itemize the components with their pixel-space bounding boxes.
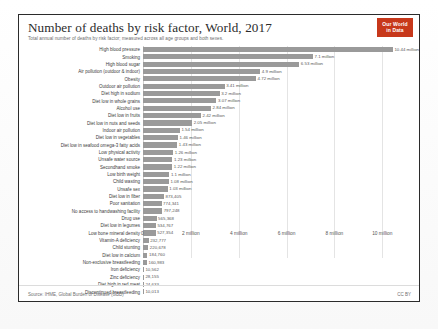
bar-row[interactable]: Secondhand smoke1.22 million [19,164,420,171]
bar-value-label: 220,678 [148,245,165,251]
bar-row[interactable]: Diet low in nuts and seeds2.05 million [19,119,420,126]
bar[interactable] [143,208,162,213]
bar-track: 1.03 million [143,186,420,193]
bar[interactable] [143,62,299,67]
bar-row[interactable]: Alcohol use2.84 million [19,105,420,112]
bar-row-label: Child stunting [19,245,143,250]
bar[interactable] [143,164,172,169]
bar-row[interactable]: Low physical activity1.26 million [19,149,420,156]
bar[interactable] [143,150,173,155]
bar-value-label: 3.07 million [216,98,240,104]
bar[interactable] [143,54,313,59]
bar[interactable] [143,135,178,140]
bar-row[interactable]: Unsafe sex1.03 million [19,186,420,193]
bar-row[interactable]: Unsafe water source1.23 million [19,156,420,163]
bar[interactable] [143,91,220,96]
bar-value-label: 1.23 million [172,157,196,163]
bar-row-label: Air pollution (outdoor & indoor) [19,69,143,74]
bar-row[interactable]: Low birth weight1.1 million [19,171,420,178]
bar-value-label: 1.22 million [172,164,196,170]
bar-track: 160,983 [143,259,420,266]
bar-row-label: High blood sugar [19,62,143,67]
bar-row[interactable]: Diet low in whole grains3.07 million [19,97,420,104]
screenshot-page: Number of deaths by risk factor, World, … [0,0,438,329]
bar-row[interactable]: Diet low in seafood omega-3 fatty acids1… [19,141,420,148]
bar[interactable] [143,186,168,191]
bar[interactable] [143,223,156,228]
bar-row[interactable]: No access to handwashing facility797,248 [19,208,420,215]
chart-card: Number of deaths by risk factor, World, … [18,14,420,302]
bar-row-label: Diet low in fruits [19,113,143,118]
bar-value-label: 1.03 million [168,186,192,192]
license-note: CC BY [397,292,411,297]
bar-value-label: 4.9 million [260,69,281,75]
bar-track: 3.41 million [143,83,420,90]
bar[interactable] [143,128,180,133]
bar-row[interactable]: Diet low in fruits2.42 million [19,112,420,119]
bar-row[interactable]: Drug use565,368 [19,215,420,222]
x-axis-tick: 6 million [278,231,296,236]
bar-row[interactable]: Poor sanitation774,341 [19,200,420,207]
bar-value-label: 534,767 [156,223,173,229]
bar-row-label: Diet low in nuts and seeds [19,121,143,126]
bar-row[interactable]: Outdoor air pollution3.41 million [19,83,420,90]
bar-row[interactable]: Obesity4.72 million [19,75,420,82]
bar-track: 1.22 million [143,164,420,171]
source-note: Source: IHME, Global Burden of Disease (… [28,292,124,297]
bar-value-label: 4.72 million [256,76,280,82]
bar[interactable] [143,142,177,147]
bar-track: 10,562 [143,266,420,273]
bar[interactable] [143,216,157,221]
bar-row[interactable]: High blood sugar6.53 million [19,61,420,68]
logo-line-2: in Data [386,28,403,33]
bar-track: 1.46 million [143,134,420,141]
bar-track: 3.07 million [143,97,420,104]
bar-row-label: Poor sanitation [19,201,143,206]
bar-row[interactable]: Child stunting220,678 [19,244,420,251]
bar-row[interactable]: Zinc deficiency28,155 [19,274,420,281]
bar-value-label: 10,013 [144,289,159,295]
bar-row[interactable]: Child wasting1.08 million [19,178,420,185]
bar[interactable] [143,84,225,89]
bar-row-label: Unsafe sex [19,187,143,192]
bar[interactable] [143,201,162,206]
bar-track: 7.1 million [143,53,420,60]
bar-row[interactable]: High blood pressure10.44 million [19,46,420,53]
bar-track: 565,368 [143,215,420,222]
bar-track: 4.9 million [143,68,420,75]
bar-row[interactable]: Diet low in fiber873,405 [19,193,420,200]
bar-row[interactable]: Air pollution (outdoor & indoor)4.9 mill… [19,68,420,75]
bar-row[interactable]: Diet low in vegetables1.46 million [19,134,420,141]
bar-track: 2.05 million [143,119,420,126]
bar[interactable] [143,113,201,118]
bar-value-label: 7.1 million [313,54,334,60]
bar-track: 1.26 million [143,149,420,156]
bar[interactable] [143,47,393,52]
bar-track: 28,155 [143,274,420,281]
bar-value-label: 1.1 million [169,172,190,178]
x-axis-tick: 0 [141,231,144,236]
bar[interactable] [143,179,169,184]
bar[interactable] [143,157,172,162]
bar-row-label: Low birth weight [19,172,143,177]
bar[interactable] [143,76,256,81]
bar-track: 10,013 [143,288,420,295]
bar-row[interactable]: Smoking7.1 million [19,53,420,60]
bar-row[interactable]: Diet low in calcium184,760 [19,252,420,259]
bar-value-label: 3.41 million [225,83,249,89]
bar-row[interactable]: Diet high in sodium3.2 million [19,90,420,97]
bar-track: 220,678 [143,244,420,251]
x-axis-tick: 2 million [182,231,200,236]
bar-row[interactable]: Indoor air pollution1.54 million [19,127,420,134]
bar-row-label: Smoking [19,55,143,60]
bar[interactable] [143,120,192,125]
bar[interactable] [143,172,169,177]
bar-row[interactable]: Iron deficiency10,562 [19,266,420,273]
bar[interactable] [143,194,164,199]
bar-row-label: Diet low in seafood omega-3 fatty acids [19,143,143,148]
our-world-in-data-logo[interactable]: Our World in Data [377,18,413,37]
bar-row[interactable]: Non-exclusive breastfeeding160,983 [19,259,420,266]
bar[interactable] [143,106,211,111]
bar[interactable] [143,69,260,74]
bar[interactable] [143,98,216,103]
